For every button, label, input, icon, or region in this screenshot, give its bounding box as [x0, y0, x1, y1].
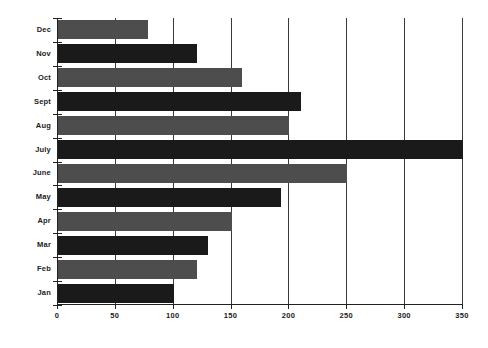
gridline-150 [231, 18, 232, 305]
y-axis-label-dec: Dec [37, 25, 51, 35]
x-tick-150 [231, 304, 232, 309]
x-axis-label-300: 300 [397, 311, 410, 321]
bar-nov [58, 44, 197, 63]
bar-feb [58, 260, 197, 279]
y-tick-nov [53, 42, 62, 43]
gridline-350 [462, 18, 463, 305]
x-axis-label-350: 350 [455, 311, 468, 321]
x-axis-label-100: 100 [166, 311, 179, 321]
y-axis-label-mar: Mar [37, 240, 51, 250]
bar-july [58, 140, 463, 159]
y-tick-jan [53, 281, 62, 282]
y-tick-dec [53, 18, 62, 19]
x-axis-label-150: 150 [224, 311, 237, 321]
y-axis-label-feb: Feb [37, 264, 51, 274]
y-axis-label-jan: Jan [37, 288, 51, 298]
bar-chart: DecNovOctSeptAugJulyJuneMayAprMarFebJan … [0, 0, 488, 348]
bar-may [58, 188, 281, 207]
y-tick-may [53, 185, 62, 186]
bar-apr [58, 212, 232, 231]
x-axis-label-50: 50 [110, 311, 119, 321]
bar-mar [58, 236, 208, 255]
y-tick-aug [53, 114, 62, 115]
x-tick-300 [404, 304, 405, 309]
x-tick-200 [288, 304, 289, 309]
y-axis-label-june: June [33, 168, 51, 178]
y-tick-oct [53, 66, 62, 67]
y-axis-label-oct: Oct [38, 73, 51, 83]
x-axis-line [57, 304, 463, 305]
bar-jan [58, 284, 174, 303]
bar-sept [58, 92, 301, 111]
x-axis-tick-labels: 050100150200250300350 [57, 311, 477, 327]
x-axis-label-200: 200 [282, 311, 295, 321]
x-tick-0 [57, 304, 58, 309]
x-tick-100 [173, 304, 174, 309]
y-tick-sept [53, 90, 62, 91]
y-tick-feb [53, 257, 62, 258]
x-tick-50 [115, 304, 116, 309]
x-axis-label-0: 0 [55, 311, 59, 321]
y-axis-label-may: May [36, 192, 51, 202]
bar-june [58, 164, 347, 183]
bar-aug [58, 116, 289, 135]
y-axis-label-july: July [35, 145, 51, 155]
gridline-200 [288, 18, 289, 305]
x-tick-350 [462, 304, 463, 309]
bar-dec [58, 20, 148, 39]
y-tick-july [53, 138, 62, 139]
gridline-250 [346, 18, 347, 305]
bar-oct [58, 68, 242, 87]
x-tick-250 [346, 304, 347, 309]
y-axis-label-sept: Sept [34, 97, 51, 107]
y-tick-apr [53, 209, 62, 210]
y-axis-label-nov: Nov [36, 49, 51, 59]
y-axis-label-apr: Apr [37, 216, 51, 226]
gridline-300 [404, 18, 405, 305]
plot-area [57, 18, 463, 305]
x-axis-label-250: 250 [340, 311, 353, 321]
y-axis-label-aug: Aug [36, 121, 51, 131]
y-axis-category-labels: DecNovOctSeptAugJulyJuneMayAprMarFebJan [0, 18, 51, 305]
y-tick-mar [53, 233, 62, 234]
y-tick-june [53, 162, 62, 163]
